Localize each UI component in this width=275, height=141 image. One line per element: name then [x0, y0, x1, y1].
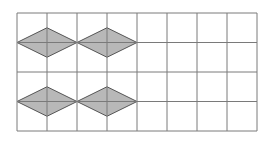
grid-figure [0, 0, 275, 141]
